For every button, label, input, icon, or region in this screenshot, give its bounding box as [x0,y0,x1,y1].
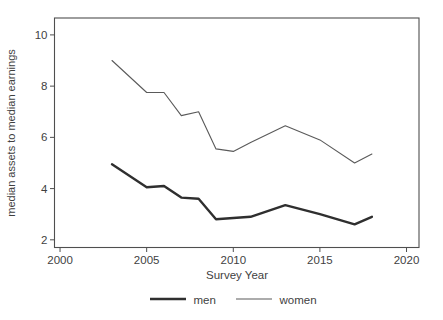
line-chart: 20002005201020152020246810 median assets… [0,0,443,320]
x-tick-label: 2020 [394,254,420,266]
y-tick-label: 8 [41,80,47,92]
plot-frame [55,18,420,248]
legend: men women [150,294,317,306]
y-axis-title: median assets to median earnings [5,49,17,217]
x-tick-label: 2010 [220,254,246,266]
plot-area: 20002005201020152020246810 [35,18,420,266]
legend-men-label: men [194,294,216,306]
x-tick-label: 2000 [47,254,73,266]
chart-figure: 20002005201020152020246810 median assets… [0,0,443,320]
y-tick-label: 10 [35,29,48,41]
x-tick-label: 2015 [307,254,333,266]
x-tick-label: 2005 [134,254,160,266]
y-tick-label: 2 [41,234,47,246]
series-line-women [112,61,372,164]
y-tick-label: 4 [41,183,48,195]
series-line-men [112,164,372,224]
legend-women-label: women [279,294,317,306]
y-tick-label: 6 [41,131,47,143]
x-axis-title: Survey Year [206,269,268,281]
